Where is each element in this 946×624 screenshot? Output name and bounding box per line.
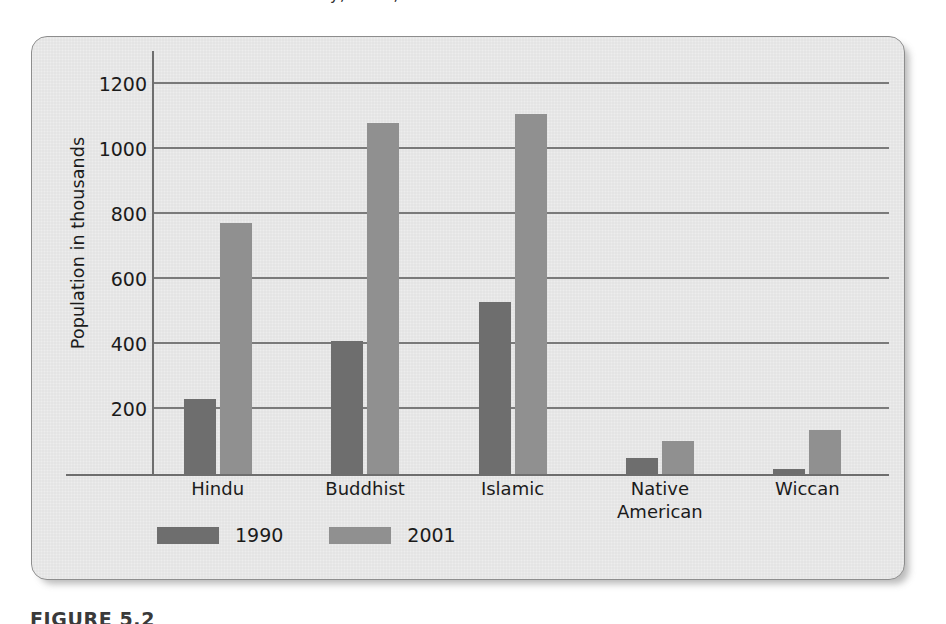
figure-caption: FIGURE 5.2 — [30, 608, 155, 624]
plot-area: 20040060080010001200 — [152, 51, 889, 474]
y-tick-label: 400 — [69, 333, 159, 355]
legend-swatch — [329, 527, 391, 544]
y-tick-label: 800 — [69, 203, 159, 225]
x-tick-label-line: Islamic — [481, 477, 544, 500]
x-axis-line — [66, 474, 889, 476]
legend-entry[interactable]: 1990 — [157, 524, 283, 546]
y-tick-label: 200 — [69, 398, 159, 420]
bar — [773, 469, 805, 474]
top-fragment-text: y, 1990, — [330, 0, 399, 4]
bar — [367, 123, 399, 474]
y-tick-label: 1200 — [69, 73, 159, 95]
y-tick-label: 600 — [69, 268, 159, 290]
bar — [626, 458, 658, 474]
x-tick-label-line: Hindu — [191, 477, 244, 500]
x-tick-label-line: Buddhist — [325, 477, 404, 500]
x-tick-label: NativeAmerican — [617, 477, 703, 523]
top-text-fragment: y, 1990, — [0, 0, 946, 10]
x-tick-label: Hindu — [191, 477, 244, 500]
x-tick-label: Islamic — [481, 477, 544, 500]
bar — [184, 399, 216, 474]
bar — [662, 441, 694, 475]
bar — [479, 302, 511, 474]
bars — [152, 51, 889, 474]
x-tick-label: Buddhist — [325, 477, 404, 500]
legend-swatch — [157, 527, 219, 544]
bar — [220, 223, 252, 474]
legend: 19902001 — [157, 524, 456, 546]
bar — [331, 341, 363, 474]
legend-entry[interactable]: 2001 — [329, 524, 455, 546]
x-tick-label-line: Native — [617, 477, 703, 500]
legend-label: 2001 — [407, 524, 455, 546]
legend-label: 1990 — [235, 524, 283, 546]
figure-frame: Population in thousands 2004006008001000… — [31, 36, 905, 580]
bar — [809, 430, 841, 474]
x-tick-label-line: American — [617, 500, 703, 523]
y-tick-label: 1000 — [69, 138, 159, 160]
bar — [515, 114, 547, 474]
x-tick-label: Wiccan — [775, 477, 840, 500]
x-tick-label-line: Wiccan — [775, 477, 840, 500]
x-tick-labels: HinduBuddhistIslamicNativeAmericanWiccan — [152, 477, 889, 529]
